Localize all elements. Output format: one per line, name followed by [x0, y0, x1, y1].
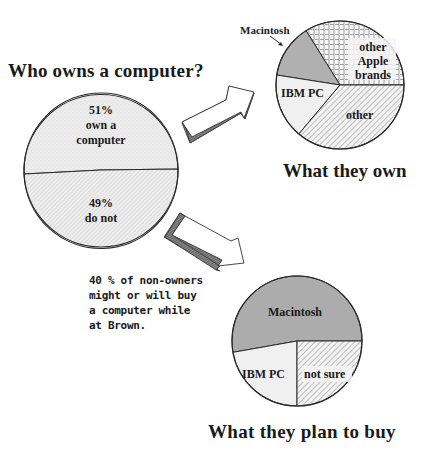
- note-line-1: 40 % of non-owners: [89, 273, 203, 288]
- label-own-other-apple-1: other: [349, 40, 397, 54]
- label-plan-ibm: IBM PC: [242, 367, 285, 382]
- arrow-to-plan: [164, 213, 244, 271]
- non-owner-note: 40 % of non-owners might or will buy a c…: [89, 273, 203, 333]
- label-non-owners: 49% do not: [71, 196, 131, 226]
- label-owners-line2: computer: [71, 133, 131, 148]
- label-own-other-apple: other Apple brands: [349, 40, 397, 82]
- label-plan-not-sure: not sure: [304, 367, 345, 382]
- label-own-other: other: [346, 108, 373, 123]
- note-line-4: at Brown.: [89, 318, 203, 333]
- arrow-to-own: [182, 86, 254, 143]
- label-owners: 51% own a computer: [71, 103, 131, 148]
- label-own-other-apple-3: brands: [349, 68, 397, 82]
- title-what-they-own: What they own: [283, 160, 407, 182]
- title-what-they-plan: What they plan to buy: [208, 421, 396, 443]
- label-owners-line1: own a: [71, 118, 131, 133]
- label-non-owners-line1: do not: [71, 211, 131, 226]
- label-own-other-apple-2: Apple: [349, 54, 397, 68]
- note-line-3: a computer while: [89, 303, 203, 318]
- label-non-owners-pct: 49%: [71, 196, 131, 211]
- plan-pie: [232, 276, 362, 406]
- title-who-owns: Who owns a computer?: [8, 60, 204, 82]
- label-own-macintosh: Macintosh: [240, 23, 290, 38]
- note-line-2: might or will buy: [89, 288, 203, 303]
- label-own-ibm: IBM PC: [281, 86, 324, 101]
- label-owners-pct: 51%: [71, 103, 131, 118]
- label-plan-macintosh: Macintosh: [268, 305, 322, 320]
